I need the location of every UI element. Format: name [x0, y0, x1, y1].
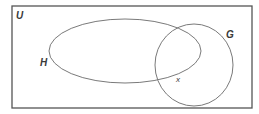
venn-diagram: U H G x [0, 0, 259, 114]
universal-set-rectangle [12, 6, 252, 108]
set-h-label: H [40, 57, 48, 68]
universal-set-label: U [16, 10, 24, 21]
element-x-label: x [175, 75, 181, 84]
set-g-label: G [226, 29, 234, 40]
set-h-ellipse [49, 19, 201, 83]
